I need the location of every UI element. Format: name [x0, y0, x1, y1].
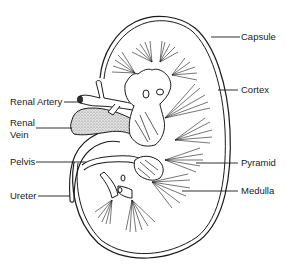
label-renal-vein-2: Vein [10, 129, 29, 140]
calyces [125, 69, 171, 180]
label-pyramid: Pyramid [241, 157, 276, 168]
label-capsule: Capsule [241, 31, 276, 42]
label-renal-artery: Renal Artery [10, 96, 62, 107]
label-cortex: Cortex [241, 84, 269, 95]
label-ureter: Ureter [10, 190, 36, 201]
label-medulla: Medulla [241, 185, 274, 196]
lower-calyces [100, 172, 132, 198]
label-renal-vein-1: Renal [10, 117, 35, 128]
label-pelvis: Pelvis [10, 156, 35, 167]
